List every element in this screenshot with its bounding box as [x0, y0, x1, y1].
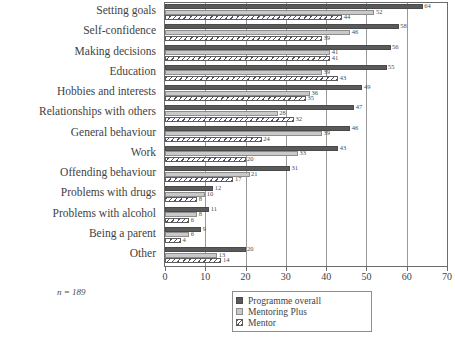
bar	[165, 56, 330, 61]
bar	[165, 45, 391, 50]
bar-value-label: 10	[207, 191, 214, 197]
bar	[165, 137, 262, 142]
category-label: Education	[109, 65, 156, 77]
bar	[165, 197, 197, 202]
bar-value-label: 43	[340, 145, 347, 151]
category-label: Offending behaviour	[60, 166, 156, 178]
bar	[165, 166, 290, 171]
bar-group: 584639	[165, 24, 447, 44]
category-label: Relationships with others	[39, 105, 156, 117]
sample-size-note: n = 189	[57, 287, 86, 297]
bar	[165, 157, 246, 162]
bar-value-label: 46	[352, 125, 359, 131]
bar	[165, 50, 330, 55]
bar	[165, 85, 362, 90]
bar	[165, 238, 181, 243]
category-label: Work	[131, 146, 156, 158]
bar-value-label: 6	[191, 217, 194, 223]
bar-group: 564141	[165, 45, 447, 65]
bar	[165, 30, 350, 35]
legend-item: Mentoring Plus	[236, 306, 367, 317]
bar-value-label: 41	[332, 55, 339, 61]
bar-group: 645244	[165, 4, 447, 24]
bar	[165, 91, 310, 96]
legend: Programme overall Mentoring Plus Mentor	[232, 291, 372, 332]
bar-group: 1186	[165, 207, 447, 227]
category-label: General behaviour	[71, 126, 156, 138]
bar-value-label: 11	[211, 206, 217, 212]
bar-value-label: 4	[183, 237, 186, 243]
bar-value-label: 31	[291, 165, 298, 171]
bar	[165, 207, 209, 212]
bar-group: 553943	[165, 65, 447, 85]
bar	[165, 65, 387, 70]
bar-value-label: 12	[215, 185, 222, 191]
legend-item: Mentor	[236, 317, 367, 328]
legend-label-mentoring-plus: Mentoring Plus	[248, 307, 307, 317]
bar-value-label: 47	[356, 104, 363, 110]
bar	[165, 24, 399, 29]
bar-value-label: 24	[263, 136, 270, 142]
bar-group: 964	[165, 227, 447, 247]
bar-value-label: 32	[295, 116, 302, 122]
bar-group: 433320	[165, 146, 447, 166]
bar-value-label: 64	[424, 3, 431, 9]
bar-group: 463924	[165, 126, 447, 146]
legend-swatch-mentor	[236, 319, 243, 326]
x-tick-label: 0	[163, 271, 168, 282]
bar-value-label: 39	[324, 69, 331, 75]
bar-value-label: 39	[324, 35, 331, 41]
category-label: Self-confidence	[83, 24, 156, 36]
bar-value-label: 58	[400, 23, 407, 29]
bar-value-label: 6	[191, 231, 194, 237]
bar	[165, 218, 189, 223]
category-label: Hobbies and interests	[57, 85, 156, 97]
bar-value-label: 49	[364, 84, 371, 90]
category-label: Other	[130, 247, 156, 259]
bar-group: 12108	[165, 186, 447, 206]
bar	[165, 151, 298, 156]
bar-value-label: 9	[203, 226, 206, 232]
bar	[165, 117, 294, 122]
bar	[165, 177, 233, 182]
bar-value-label: 21	[251, 171, 258, 177]
bar-value-label: 28	[279, 110, 286, 116]
legend-swatch-mentoring-plus	[236, 308, 243, 315]
bar-value-label: 14	[223, 257, 230, 263]
category-label: Problems with drugs	[61, 186, 156, 198]
legend-label-mentor: Mentor	[248, 318, 276, 328]
bar	[165, 15, 342, 20]
bar-value-label: 20	[247, 156, 254, 162]
x-tick-label: 50	[361, 271, 371, 282]
bars-layer: 6452445846395641415539434936354728324639…	[165, 3, 447, 266]
bar-value-label: 44	[344, 14, 351, 20]
bar-value-label: 39	[324, 130, 331, 136]
bar	[165, 96, 306, 101]
bar	[165, 105, 354, 110]
bar-value-label: 56	[392, 44, 399, 50]
bar	[165, 76, 338, 81]
bar-group: 493635	[165, 85, 447, 105]
bar	[165, 70, 322, 75]
legend-item: Programme overall	[236, 295, 367, 306]
bar	[165, 111, 278, 116]
bar	[165, 146, 338, 151]
bar-value-label: 55	[388, 64, 395, 70]
legend-label-programme-overall: Programme overall	[248, 296, 321, 306]
category-label: Being a parent	[89, 227, 156, 239]
x-tick-label: 60	[402, 271, 412, 282]
x-tick-label: 70	[442, 271, 452, 282]
bar	[165, 258, 221, 263]
bar-group: 312117	[165, 166, 447, 186]
bar-value-label: 46	[352, 29, 359, 35]
category-label: Problems with alcohol	[53, 207, 157, 219]
bar-value-label: 8	[199, 211, 202, 217]
bar-chart: Setting goalsSelf-confidenceMaking decis…	[0, 0, 455, 337]
bar-value-label: 20	[247, 246, 254, 252]
bar	[165, 253, 217, 258]
bar-value-label: 17	[235, 176, 242, 182]
bar-group: 201314	[165, 247, 447, 267]
x-tick-label: 30	[281, 271, 291, 282]
bar-value-label: 52	[376, 9, 383, 15]
legend-swatch-programme-overall	[236, 297, 243, 304]
